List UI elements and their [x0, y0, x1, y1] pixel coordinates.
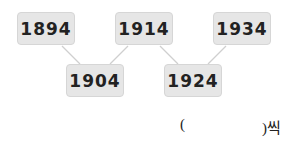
year-box-1904: 1904: [66, 64, 124, 97]
answer-blank[interactable]: [190, 116, 260, 134]
year-box-1934: 1934: [213, 12, 271, 45]
answer-open-paren: (: [180, 116, 185, 133]
year-box-1924: 1924: [164, 64, 222, 97]
year-box-1894: 1894: [17, 12, 75, 45]
answer-close-suffix: )씩: [262, 116, 281, 137]
year-box-1914: 1914: [115, 12, 173, 45]
